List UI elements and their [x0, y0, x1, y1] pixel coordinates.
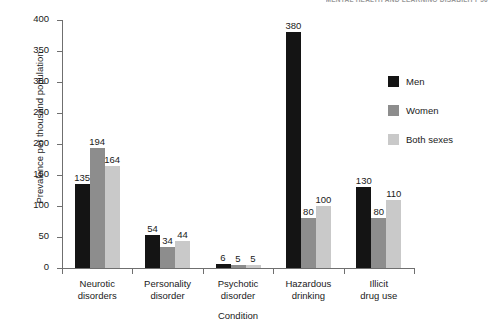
- bar-value-label: 5: [250, 254, 255, 264]
- x-axis-category-label: Illicitdrug use: [333, 278, 425, 301]
- bar-value-label: 6: [220, 253, 225, 263]
- legend-label: Both sexes: [406, 134, 453, 145]
- bar-women: 5: [231, 265, 246, 268]
- y-axis-tick-label: 400: [33, 13, 49, 24]
- category-label-line: drug use: [333, 290, 425, 302]
- bar-value-label: 100: [315, 195, 331, 205]
- bar-value-label: 380: [285, 21, 301, 31]
- x-axis-tick: [414, 269, 415, 274]
- legend-item: Both sexes: [388, 125, 488, 154]
- y-axis-tick-label: 100: [33, 199, 49, 210]
- bar-both: 164: [105, 166, 120, 268]
- bar-women: 80: [301, 218, 316, 268]
- bar-value-label: 5: [235, 254, 240, 264]
- bar-value-label: 44: [177, 230, 188, 240]
- bar-value-label: 194: [89, 137, 105, 147]
- y-axis-line: [62, 20, 63, 269]
- bar-value-label: 110: [386, 189, 401, 199]
- bar-group: 543444: [145, 20, 190, 268]
- y-axis-tick-label: 250: [33, 106, 49, 117]
- y-axis-tick: 300: [57, 82, 62, 83]
- y-axis-tick: 250: [57, 113, 62, 114]
- y-axis-tick-label: 0: [44, 261, 49, 272]
- x-axis-tick: [62, 269, 63, 274]
- bar-both: 100: [316, 206, 331, 268]
- legend-label: Women: [406, 105, 439, 116]
- bar-value-label: 80: [303, 207, 314, 217]
- legend-swatch: [388, 105, 399, 116]
- legend-item: Men: [388, 67, 488, 96]
- bar-group: 135194164: [75, 20, 120, 268]
- y-axis-tick: 350: [57, 51, 62, 52]
- bar-both: 5: [246, 265, 261, 268]
- y-axis-tick: 400: [57, 20, 62, 21]
- bar-women: 194: [90, 148, 105, 268]
- bar-men: 54: [145, 235, 160, 268]
- bar-value-label: 34: [162, 236, 173, 246]
- legend-swatch: [388, 134, 399, 145]
- category-label-line: Illicit: [333, 278, 425, 290]
- x-axis-tick: [344, 269, 345, 274]
- y-axis-tick: 150: [57, 175, 62, 176]
- bar-men: 130: [356, 187, 371, 268]
- bar-women: 80: [371, 218, 386, 268]
- legend-label: Men: [406, 76, 424, 87]
- bar-value-label: 135: [74, 173, 90, 183]
- x-axis-tick: [273, 269, 274, 274]
- y-axis-tick-label: 150: [33, 168, 49, 179]
- y-axis-tick-label: 50: [38, 230, 49, 241]
- y-axis-tick: 50: [57, 237, 62, 238]
- y-axis-tick: 200: [57, 144, 62, 145]
- bar-women: 34: [160, 247, 175, 268]
- bar-group: 655: [216, 20, 261, 268]
- bar-value-label: 54: [147, 224, 158, 234]
- chart-legend: MenWomenBoth sexes: [388, 67, 488, 154]
- x-axis-tick: [203, 269, 204, 274]
- x-axis-tick: [132, 269, 133, 274]
- bar-group: 38080100: [286, 20, 331, 268]
- y-axis-tick-label: 350: [33, 44, 49, 55]
- bar-both: 44: [175, 241, 190, 268]
- plot-area: 050100150200250300350400 135194164543444…: [62, 20, 414, 268]
- x-axis-line: [62, 268, 415, 269]
- x-axis-title: Condition: [62, 310, 414, 321]
- y-axis-title: Prevalence per thousand population: [34, 3, 45, 253]
- bar-chart-figure: Prevalence per thousand population 05010…: [0, 0, 496, 332]
- y-axis-tick-label: 200: [33, 137, 49, 148]
- y-axis-tick: 100: [57, 206, 62, 207]
- bar-both: 110: [386, 200, 401, 268]
- bar-value-label: 130: [356, 176, 372, 186]
- bar-men: 135: [75, 184, 90, 268]
- legend-item: Women: [388, 96, 488, 125]
- bar-value-label: 80: [374, 207, 385, 217]
- legend-swatch: [388, 76, 399, 87]
- bar-men: 380: [286, 32, 301, 268]
- bar-value-label: 164: [104, 155, 120, 165]
- bar-men: 6: [216, 264, 231, 268]
- y-axis-tick-label: 300: [33, 75, 49, 86]
